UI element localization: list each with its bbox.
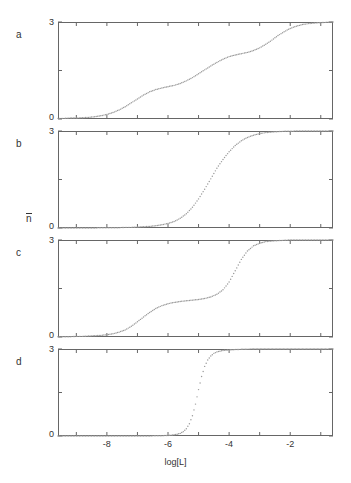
x-tick-label-minus2: -2 xyxy=(280,440,300,449)
y-axis-title: n xyxy=(26,214,32,224)
binding-isotherm-figure: a 3 0 b 3 0 c 3 0 d 3 0 n -8 -6 -4 -2 lo… xyxy=(0,0,351,483)
panel-b-ytick-top: 3 xyxy=(40,127,54,136)
x-tick-label-minus4: -4 xyxy=(219,440,239,449)
x-tick-label-minus8: -8 xyxy=(97,440,117,449)
panel-c-ytick-bottom: 0 xyxy=(40,331,54,340)
panel-b-plot xyxy=(58,131,333,228)
panel-a-ytick-bottom: 0 xyxy=(40,113,54,122)
panel-label-a: a xyxy=(16,30,22,40)
panel-c xyxy=(58,240,333,337)
panel-d xyxy=(58,349,333,436)
panel-b-ytick-bottom: 0 xyxy=(40,222,54,231)
panel-d-plot xyxy=(58,349,333,436)
panel-a-ytick-top: 3 xyxy=(40,18,54,27)
x-tick-label-minus6: -6 xyxy=(158,440,178,449)
x-axis-title: log[L] xyxy=(0,457,351,467)
y-axis-title-text: n xyxy=(26,214,32,224)
panel-a-plot xyxy=(58,22,333,119)
panel-c-ytick-top: 3 xyxy=(40,236,54,245)
panel-label-d: d xyxy=(16,357,22,367)
panel-d-ytick-bottom: 0 xyxy=(40,430,54,439)
panel-c-plot xyxy=(58,240,333,337)
panel-b xyxy=(58,131,333,228)
panel-label-b: b xyxy=(16,139,22,149)
panel-label-c: c xyxy=(16,248,21,258)
panel-a xyxy=(58,22,333,119)
panel-d-ytick-top: 3 xyxy=(40,345,54,354)
